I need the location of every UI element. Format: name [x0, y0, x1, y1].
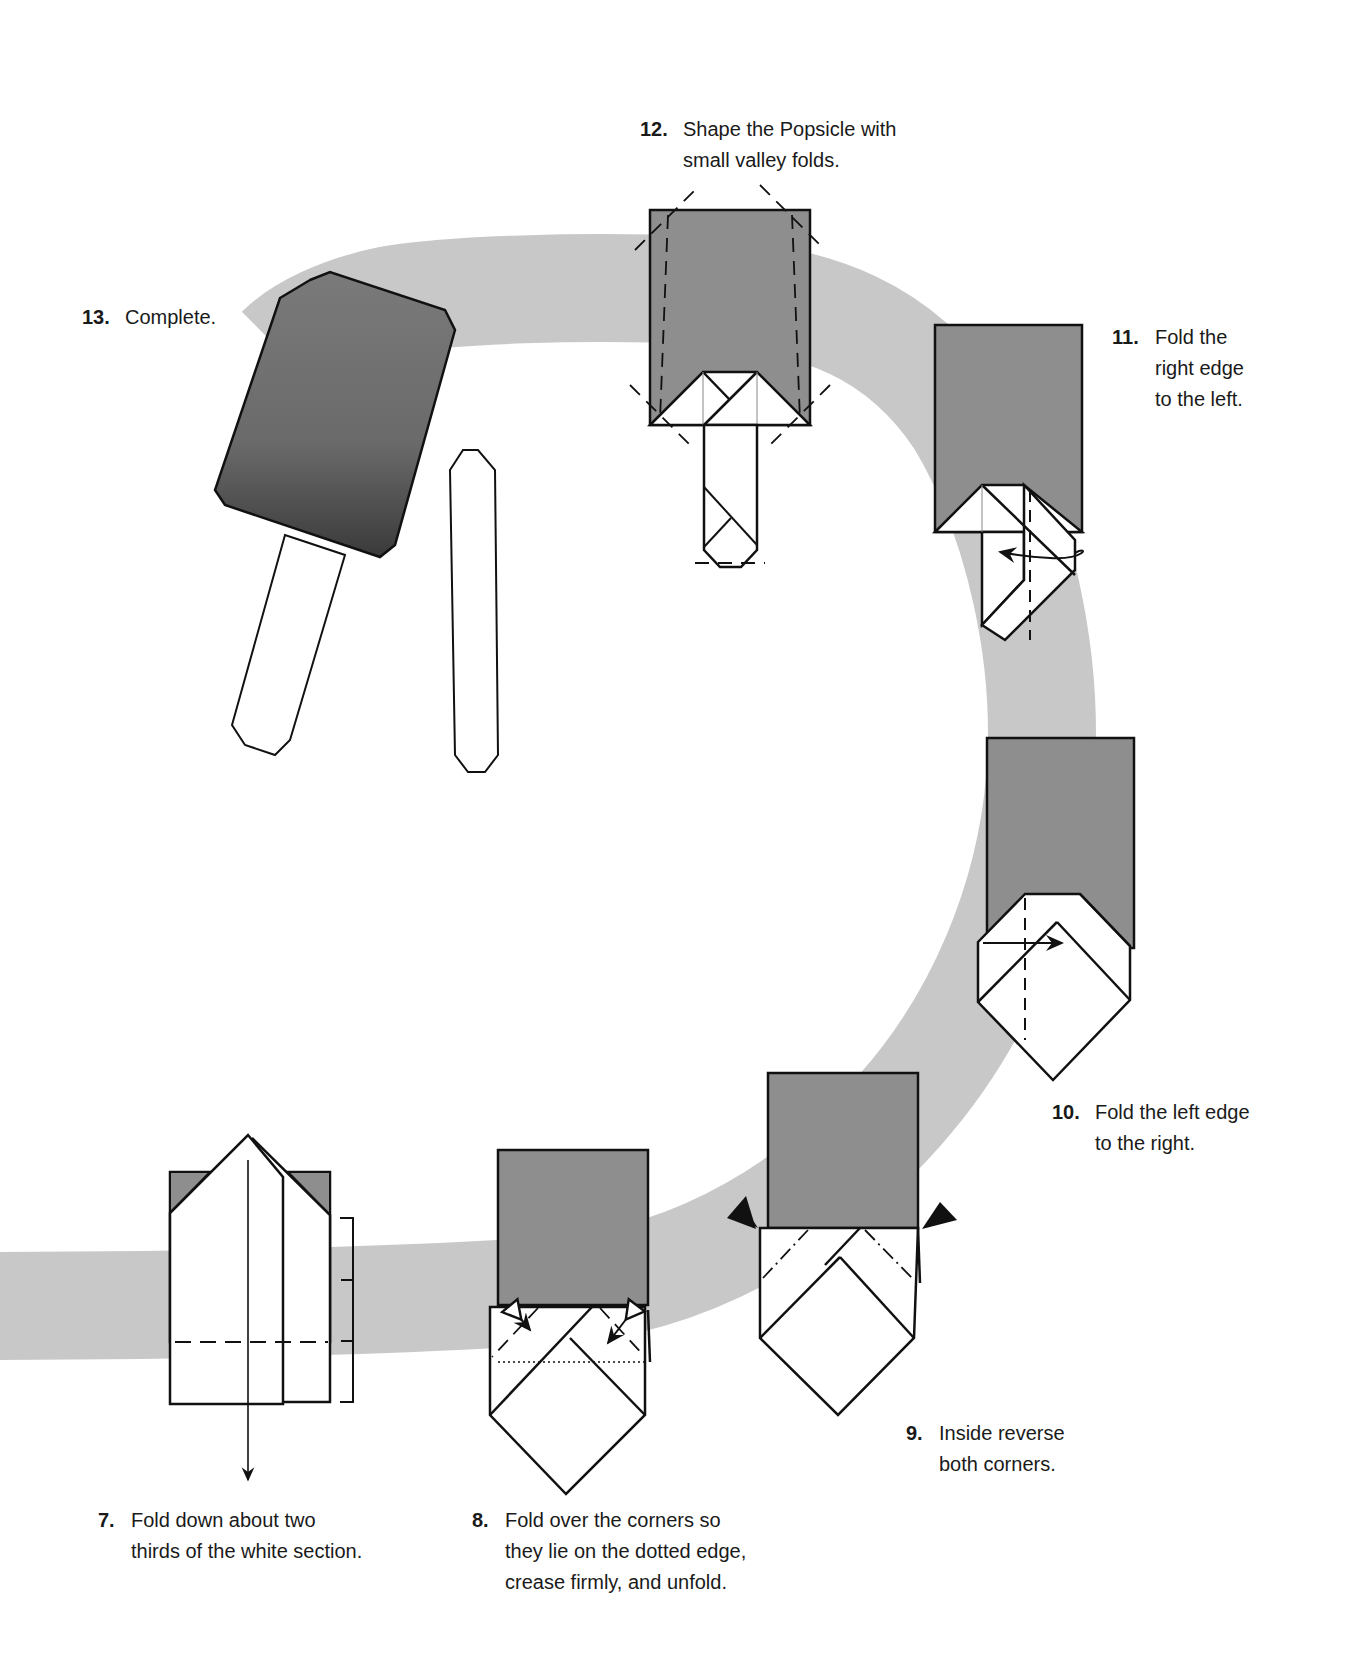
step-text: Fold the left edge to the right.	[1052, 1097, 1332, 1159]
step-9-caption: 9. Inside reverse both corners.	[906, 1418, 1126, 1480]
step-number: 8.	[472, 1505, 489, 1536]
step-13-figure	[215, 272, 498, 772]
step-7-caption: 7. Fold down about two thirds of the whi…	[98, 1505, 438, 1567]
step-text: Shape the Popsicle with small valley fol…	[640, 114, 970, 176]
step-10-caption: 10. Fold the left edge to the right.	[1052, 1097, 1332, 1159]
step-12-caption: 12. Shape the Popsicle with small valley…	[640, 114, 970, 176]
step-number: 12.	[640, 114, 668, 145]
step-12-figure	[630, 185, 830, 567]
step-number: 10.	[1052, 1097, 1080, 1128]
step-text: Fold the right edge to the left.	[1112, 322, 1312, 415]
step-text: Complete.	[82, 302, 282, 333]
step-7-figure	[170, 1135, 353, 1480]
loose-stick	[450, 450, 498, 772]
step-8-caption: 8. Fold over the corners so they lie on …	[472, 1505, 832, 1598]
popsicle-stick	[232, 535, 345, 755]
step-number: 7.	[98, 1505, 115, 1536]
step-number: 9.	[906, 1418, 923, 1449]
step-text: Fold down about two thirds of the white …	[98, 1505, 438, 1567]
step-number: 13.	[82, 302, 110, 333]
step-text: Inside reverse both corners.	[906, 1418, 1126, 1480]
step-8-figure	[490, 1150, 650, 1494]
step-text: Fold over the corners so they lie on the…	[472, 1505, 832, 1598]
folding-diagram	[0, 0, 1357, 1664]
reverse-fold-marker-icon	[922, 1202, 957, 1229]
step-number: 11.	[1112, 322, 1139, 353]
step-13-caption: 13. Complete.	[82, 302, 282, 333]
step-11-caption: 11. Fold the right edge to the left.	[1112, 322, 1312, 415]
